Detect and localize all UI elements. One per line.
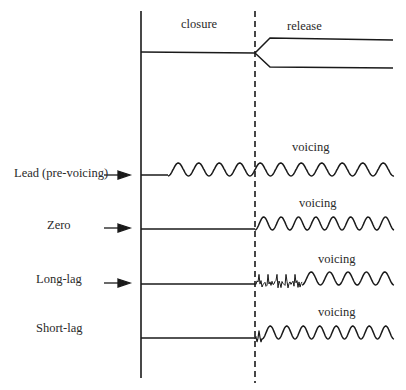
release-label: release: [287, 19, 322, 34]
row-longlag-signal: [141, 272, 394, 288]
arrow-zero-icon: [104, 224, 130, 232]
voicing-label-zero: voicing: [299, 196, 337, 211]
articulator-lines: [141, 38, 393, 68]
voicing-label-lead: voicing: [292, 140, 330, 155]
row-label-zero: Zero: [47, 218, 71, 233]
closure-label: closure: [181, 17, 217, 32]
row-zero-signal: [141, 217, 394, 230]
row-label-lead: Lead (pre-voicing): [14, 166, 108, 181]
row-shortlag-signal: [141, 326, 394, 342]
row-label-shortlag: Short-lag: [36, 321, 83, 336]
arrow-longlag-icon: [104, 279, 130, 287]
voicing-label-shortlag: voicing: [318, 305, 356, 320]
arrows: [104, 171, 130, 287]
voicing-label-longlag: voicing: [318, 252, 356, 267]
row-label-longlag: Long-lag: [36, 272, 82, 287]
row-lead-signal: [141, 163, 394, 176]
